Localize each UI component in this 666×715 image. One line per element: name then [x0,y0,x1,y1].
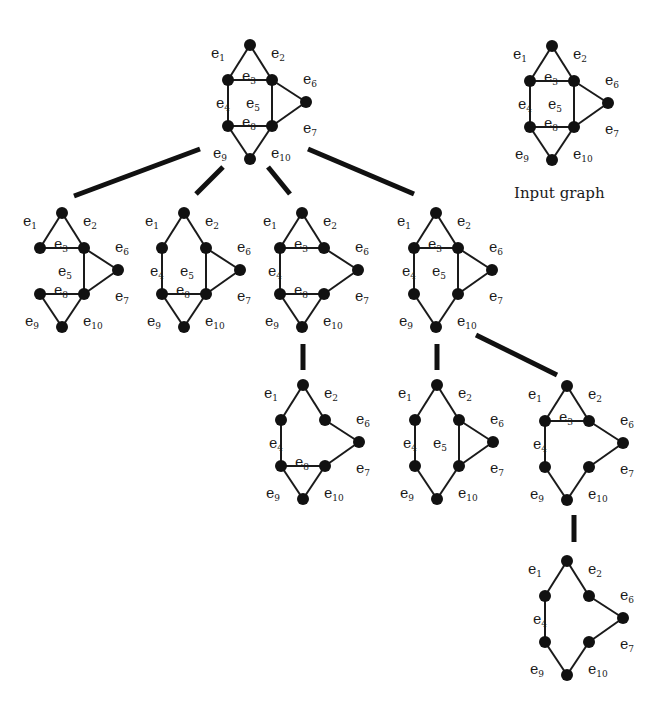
edge-e1 [162,213,184,248]
graph-vertex [539,461,551,473]
edge-label-e6: e6 [355,239,369,257]
input-graph-caption: Input graph [514,184,605,202]
edge-label-e8: e8 [242,114,256,132]
edge-label-e1: e1 [211,45,225,63]
graph-vertex [274,288,286,300]
graph-vertex [78,288,90,300]
graph-vertex [222,120,234,132]
edge-label-e8: e8 [295,454,309,472]
edge-e7 [458,270,492,294]
graph-vertex [583,636,595,648]
edge-label-e8: e8 [54,282,68,300]
graph-vertex [561,555,573,567]
edge-label-e1: e1 [513,46,527,64]
edge-label-e10: e10 [271,145,291,163]
edge-e7 [272,102,306,126]
graph-vertex [234,264,246,276]
graph-minus-e3-e5-e8: e1e2e4e6e7e9e10 [528,555,634,681]
edge-label-e6: e6 [237,239,251,257]
graph-vertex [200,288,212,300]
edge-label-e3: e3 [544,69,558,87]
graph-vertex [296,321,308,333]
graph-vertex [452,288,464,300]
graph-vertex [539,636,551,648]
edge-label-e1: e1 [528,561,542,579]
graph-vertex [431,493,443,505]
graph-vertex [487,436,499,448]
graph-vertex [297,493,309,505]
edge-label-e10: e10 [588,486,608,504]
edge-e6 [272,80,306,102]
edge-label-e5: e5 [433,435,447,453]
graph-vertex [178,321,190,333]
graph-vertex [352,264,364,276]
edge-e1 [415,385,437,420]
edge-e7 [84,270,118,294]
graph-vertex [583,461,595,473]
edge-label-e8: e8 [544,115,558,133]
edge-label-e3: e3 [242,68,256,86]
edge-label-e6: e6 [490,411,504,429]
edge-e6 [459,420,493,442]
edge-label-e9: e9 [530,661,544,679]
edge-label-e3: e3 [559,409,573,427]
edge-label-e7: e7 [115,288,129,306]
edge-e6 [324,248,358,270]
tree-connector-line [308,149,414,194]
edge-label-e9: e9 [147,313,161,331]
decomposition-tree-diagram: e1e2e3e4e5e6e7e8e9e10e1e2e3e4e5e6e7e8e9e… [0,0,666,715]
graph-vertex [200,242,212,254]
edge-label-e9: e9 [213,145,227,163]
edge-label-e9: e9 [25,313,39,331]
graph-minus-e3-e8: e1e2e4e5e6e7e9e10 [398,379,504,505]
edge-label-e7: e7 [355,288,369,306]
graph-vertex [156,288,168,300]
edge-label-e2: e2 [271,45,285,63]
graph-vertex [430,321,442,333]
edge-e7 [325,442,359,466]
edge-label-e1: e1 [263,213,277,231]
tree-connector-line [268,167,290,194]
graph-input: e1e2e3e4e5e6e7e8e9e10 [513,40,619,166]
graph-vertex [34,242,46,254]
edge-label-e2: e2 [83,213,97,231]
edge-e6 [84,248,118,270]
edge-label-e1: e1 [264,385,278,403]
edge-label-e9: e9 [530,486,544,504]
graph-vertex [56,207,68,219]
edge-e1 [281,385,303,420]
graph-vertex [112,264,124,276]
edge-label-e8: e8 [176,282,190,300]
edge-label-e8: e8 [294,282,308,300]
graph-vertex [486,264,498,276]
edge-label-e5: e5 [180,263,194,281]
graph-vertex [244,39,256,51]
graph-vertex [353,436,365,448]
edge-label-e5: e5 [548,96,562,114]
edge-label-e1: e1 [528,386,542,404]
edge-label-e6: e6 [115,239,129,257]
graph-vertex [583,590,595,602]
edge-label-e10: e10 [83,313,103,331]
graph-vertex [266,74,278,86]
tree-connector-line [196,167,223,194]
edge-e2 [567,386,589,421]
graph-vertex [617,612,629,624]
graph-vertex [274,242,286,254]
edge-label-e2: e2 [457,213,471,231]
graph-vertex [409,414,421,426]
edge-label-e7: e7 [489,288,503,306]
edge-label-e10: e10 [588,661,608,679]
edge-label-e2: e2 [324,385,338,403]
graph-vertex [546,40,558,52]
edge-label-e7: e7 [303,120,317,138]
graph-minus-e8: e1e2e3e4e5e6e7e9e10 [397,207,503,333]
graph-vertex [319,460,331,472]
graph-vertex [275,414,287,426]
edge-label-e2: e2 [205,213,219,231]
edge-e2 [303,385,325,420]
edge-e2 [552,46,574,81]
graph-minus-e4: e1e2e3e5e6e7e8e9e10 [23,207,129,333]
graph-vertex [318,288,330,300]
graph-vertex [222,74,234,86]
